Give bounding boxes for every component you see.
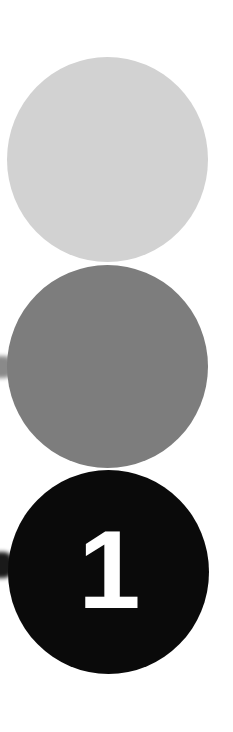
step-circle-light bbox=[7, 57, 208, 262]
step-number-label: 1 bbox=[78, 514, 138, 626]
step-circle-dark: 1 bbox=[8, 470, 209, 674]
step-circle-mid bbox=[7, 265, 208, 468]
